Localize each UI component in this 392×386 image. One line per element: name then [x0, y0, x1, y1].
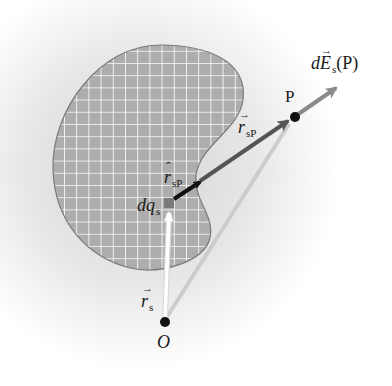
- r-s-vector: [165, 213, 169, 320]
- point-origin: [160, 317, 170, 327]
- label-origin: O: [157, 333, 170, 351]
- point-p: [290, 112, 300, 122]
- label-field-vector: dEs(P): [311, 54, 358, 72]
- label-dq-s: dqs: [137, 196, 160, 214]
- label-r-sp: rsP: [238, 118, 256, 136]
- charge-element: [164, 198, 174, 208]
- label-r-s: rs: [141, 292, 153, 310]
- label-r-hat-sp: rsP: [164, 168, 182, 186]
- field-symbol: E: [320, 54, 331, 72]
- label-p: P: [285, 88, 294, 105]
- charge-distribution-diagram: dEs(P) P rsP rsP dqs rs O: [0, 0, 392, 386]
